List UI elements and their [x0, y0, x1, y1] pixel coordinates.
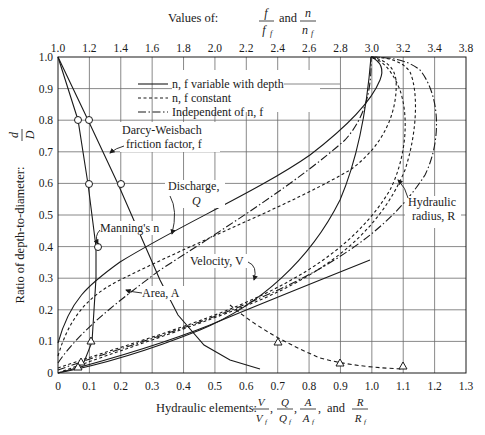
- x-tick-label: 0.8: [302, 380, 317, 392]
- annotation-radius-1: Hydraulic: [408, 195, 456, 209]
- x-tick-label: 1.0: [365, 380, 380, 392]
- svg-text:,: ,: [270, 401, 273, 415]
- legend-label-independent: Independent of n, f: [172, 105, 263, 119]
- annotation-darcy-1: Darcy-Weisbach: [122, 123, 202, 137]
- top-tick-label: 1.6: [145, 42, 160, 54]
- svg-text:f: f: [364, 418, 367, 426]
- circle-marker: [95, 244, 102, 251]
- top-axis-title: Values of: f f f and n n f: [168, 6, 316, 38]
- svg-text:V: V: [256, 412, 264, 424]
- y-tick-label: 0.4: [39, 241, 54, 253]
- svg-text:A: A: [304, 396, 312, 408]
- annotation-darcy-2: friction factor, f: [126, 137, 202, 151]
- y-tick-label: 0.3: [39, 272, 54, 284]
- top-tick-label: 3.4: [427, 42, 442, 54]
- svg-text:f: f: [265, 418, 268, 426]
- markers: [74, 117, 407, 371]
- annotation-manning: Manning's n: [100, 221, 159, 235]
- top-frac1-den-sub: f: [270, 29, 274, 38]
- y-tick-label: 1.0: [39, 51, 54, 63]
- y-tick-label: 0.5: [39, 209, 54, 221]
- x-tick-label: 1.3: [459, 380, 474, 392]
- y-tick-label: 0.7: [39, 146, 54, 158]
- legend-label-variable: n, f variable with depth: [172, 77, 284, 91]
- y-frac-num: d: [7, 131, 21, 138]
- bottom-axis-ticks: 00.10.20.30.40.50.60.70.80.91.01.11.21.3: [55, 380, 473, 392]
- annotations: Darcy-Weisbach friction factor, f Discha…: [96, 122, 461, 300]
- svg-text:Q: Q: [281, 396, 289, 408]
- circle-marker: [86, 117, 93, 124]
- triangle-marker: [87, 337, 95, 344]
- top-tick-label: 2.6: [302, 42, 317, 54]
- svg-text:V: V: [258, 396, 266, 408]
- y-tick-label: 0.9: [39, 83, 54, 95]
- circle-marker: [118, 181, 125, 188]
- y-axis-label-text: Ratio of depth-to-diameter:: [13, 167, 27, 304]
- x-tick-label: 1.2: [427, 380, 442, 392]
- svg-text:Q: Q: [279, 412, 287, 424]
- top-frac1-den: f: [262, 23, 267, 37]
- annotation-radius-2: radius, R: [412, 209, 455, 223]
- top-tick-label: 1.4: [114, 42, 129, 54]
- top-tick-label: 3.0: [365, 42, 380, 54]
- y-axis-label: Ratio of depth-to-diameter: d D: [7, 129, 37, 303]
- svg-text:f: f: [312, 418, 315, 426]
- top-tick-label: 2.0: [208, 42, 223, 54]
- svg-text:R: R: [354, 412, 362, 424]
- x-tick-label: 0: [55, 380, 61, 392]
- y-tick-label: 0.8: [39, 114, 54, 126]
- x-axis-label-prefix: Hydraulic elements:: [156, 401, 257, 415]
- top-tick-label: 3.2: [396, 42, 411, 54]
- x-tick-label: 0.5: [208, 380, 223, 392]
- x-tick-label: 0.9: [333, 380, 348, 392]
- top-axis-and: and: [279, 11, 298, 25]
- top-frac1-num: f: [264, 6, 269, 20]
- circle-marker: [86, 181, 93, 188]
- annotation-area: Area, A: [142, 286, 180, 300]
- top-frac2-num: n: [305, 6, 311, 20]
- top-tick-label: 1.8: [176, 42, 191, 54]
- x-tick-label: 0.7: [271, 380, 286, 392]
- top-tick-label: 1.2: [82, 42, 97, 54]
- top-frac2-den: n: [302, 23, 308, 37]
- svg-text:,: ,: [318, 401, 321, 415]
- x-axis-label-and: and: [327, 401, 346, 415]
- circle-marker: [75, 117, 82, 124]
- top-tick-label: 2.8: [333, 42, 348, 54]
- annotation-discharge-2: Q: [192, 194, 201, 208]
- top-frac2-den-sub: f: [311, 29, 315, 38]
- top-axis-ticks: 1.01.21.41.61.82.02.22.42.62.83.03.23.43…: [51, 42, 474, 54]
- svg-text:R: R: [356, 396, 364, 408]
- top-tick-label: 1.0: [51, 42, 66, 54]
- bottom-axis-title: Hydraulic elements: V V f , Q Q f , A A …: [156, 396, 368, 426]
- mannings-n-curve: [58, 57, 96, 365]
- hydraulic-elements-chart: Values of: f f f and n n f 1.01.21.41.61…: [0, 0, 485, 435]
- x-tick-label: 0.1: [82, 380, 97, 392]
- y-tick-label: 0.2: [39, 304, 54, 316]
- left-axis-ticks: 00.10.20.30.40.50.60.70.80.91.0: [39, 51, 54, 379]
- x-tick-label: 0.2: [114, 380, 129, 392]
- top-tick-label: 3.8: [459, 42, 474, 54]
- legend-label-constant: n, f constant: [172, 91, 232, 105]
- annotation-discharge-1: Discharge,: [168, 179, 219, 193]
- legend: n, f variable with depth n, f constant I…: [138, 70, 340, 119]
- svg-text:,: ,: [294, 401, 297, 415]
- y-tick-label: 0: [47, 367, 53, 379]
- svg-text:f: f: [289, 418, 292, 426]
- x-tick-label: 0.3: [145, 380, 160, 392]
- y-tick-label: 0.1: [39, 335, 54, 347]
- legend-item-dashdot: Independent of n, f: [138, 105, 263, 119]
- top-tick-label: 2.4: [271, 42, 286, 54]
- top-tick-label: 2.2: [239, 42, 254, 54]
- x-tick-label: 0.4: [176, 380, 191, 392]
- x-tick-label: 1.1: [396, 380, 411, 392]
- q-triangle-curve: [230, 305, 403, 369]
- y-tick-label: 0.6: [39, 177, 54, 189]
- top-axis-title-prefix: Values of:: [168, 11, 218, 25]
- y-frac-den: D: [23, 130, 37, 140]
- annotation-velocity: Velocity, V: [190, 254, 244, 268]
- triangle-marker: [399, 362, 407, 369]
- svg-text:A: A: [302, 412, 310, 424]
- x-tick-label: 0.6: [239, 380, 254, 392]
